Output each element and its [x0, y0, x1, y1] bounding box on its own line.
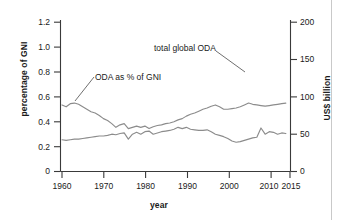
x-tick-label: 1960	[47, 181, 77, 191]
left-tick-label: 0.4	[28, 117, 50, 127]
left-axis-ticks	[54, 22, 61, 171]
x-axis-title: year	[150, 200, 168, 210]
left-tick-label: 1.0	[28, 42, 50, 52]
annotation-oda-as-pct-of-gni: ODA as % of GNI	[95, 72, 161, 82]
right-tick-label: 100	[300, 92, 324, 102]
x-tick-label: 1970	[89, 181, 119, 191]
x-tick-label: 2000	[214, 181, 244, 191]
bottom-axis-ticks	[62, 172, 290, 179]
x-tick-label: 1980	[131, 181, 161, 191]
left-tick-label: 1.2	[28, 17, 50, 27]
right-tick-label: 200	[300, 17, 324, 27]
series-line-oda-as-pct-of-gni	[62, 127, 286, 142]
right-tick-label: 150	[300, 54, 324, 64]
left-tick-label: 0.6	[28, 92, 50, 102]
x-tick-label: 1990	[173, 181, 203, 191]
annotation-total-global-oda: total global ODA	[154, 43, 216, 53]
leader-line-total-global-oda	[216, 51, 245, 72]
left-tick-label: 0	[28, 166, 50, 176]
right-tick-label: 50	[300, 129, 324, 139]
right-tick-label: 0	[300, 166, 324, 176]
chart-figure: percentage of GNI US$ billion year 1.2 1…	[0, 0, 349, 220]
leader-line-oda-as-pct-of-gni	[75, 77, 94, 101]
left-tick-label: 0.2	[28, 142, 50, 152]
left-tick-label: 0.8	[28, 67, 50, 77]
right-axis-ticks	[291, 22, 298, 171]
x-tick-label: 2015	[276, 181, 306, 191]
series-line-total-global-oda	[62, 103, 286, 129]
